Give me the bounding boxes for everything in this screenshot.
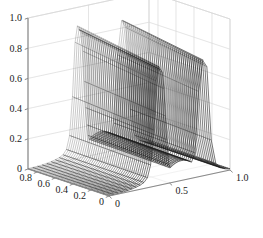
x-tick-label: 1.0 [236,172,249,183]
y-tick-label: 0.4 [56,184,69,195]
plot-canvas: 00.20.40.60.81.000.20.40.60.800.51.0 [0,0,263,238]
x-tick-label: 0.5 [176,185,189,196]
y-tick-label: 0.2 [74,190,87,201]
y-tick-label: 0.8 [20,172,33,183]
z-tick-label: 1.0 [10,12,23,23]
x-tick-label: 0 [115,198,120,209]
z-tick-label: 0.6 [10,73,23,84]
z-tick-label: 0.2 [10,133,23,144]
y-tick-label: 0.6 [38,178,51,189]
figure-3d-surface-plot: 00.20.40.60.81.000.20.40.60.800.51.0 [0,0,263,238]
z-tick-label: 0.4 [10,103,23,114]
z-tick-label: 0.8 [10,43,23,54]
y-tick-label: 0 [99,196,104,207]
